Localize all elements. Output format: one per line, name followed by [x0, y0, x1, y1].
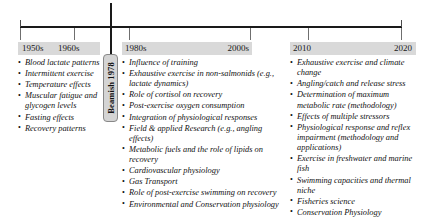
topic-item: Physiological response and reflex impair…: [290, 123, 418, 154]
topic-item: Fisheries science: [290, 197, 418, 207]
decade-label-1980s: 1980s: [125, 42, 147, 55]
axis-tick-7: [401, 28, 402, 40]
timeline-figure: Beamish 1978 1950s 1960s 1980s 2000s 201…: [0, 0, 422, 219]
topic-item: Intermittent exercise: [18, 69, 100, 79]
decade-label-1950s: 1950s: [22, 42, 44, 55]
axis-tick-2: [74, 28, 75, 40]
event-marker-line: [110, 3, 112, 55]
topic-item: Gas Transport: [122, 177, 282, 187]
decade-label-2020: 2020: [394, 42, 412, 55]
decade-band-period-3: 2010 2020: [290, 42, 416, 55]
topic-list-period-2: Influence of trainingExhaustive exercise…: [122, 58, 282, 211]
topic-item: Metabolic fuels and the role of lipids o…: [122, 145, 282, 165]
timeline-axis-line: [20, 26, 402, 28]
topic-items: Blood lactate patternsIntermittent exerc…: [18, 58, 100, 134]
topic-item: Conservation Physiology: [290, 208, 418, 218]
topic-item: Post-exercise oxygen consumption: [122, 101, 282, 111]
topic-item: Exhaustive exercise and climate change: [290, 58, 418, 78]
topic-item: Field & applied Research (e.g., angling …: [122, 124, 282, 144]
topic-list-period-3: Exhaustive exercise and climate changeAn…: [290, 58, 418, 219]
axis-end-cap: [401, 20, 402, 27]
topic-items: Influence of trainingExhaustive exercise…: [122, 58, 282, 210]
topic-item: Influence of training: [122, 58, 282, 68]
decade-band-period-2: 1980s 2000s: [122, 42, 252, 55]
topic-item: Exhaustive exercise in non-salmonids (e.…: [122, 69, 282, 89]
topic-item: Recovery patterns: [18, 124, 100, 134]
topic-item: Integration of physiological responses: [122, 113, 282, 123]
axis-tick-4: [129, 28, 130, 40]
topic-item: Effects of multiple stressors: [290, 112, 418, 122]
axis-tick-6: [308, 28, 309, 40]
topic-item: Muscular fatigue and glycogen levels: [18, 91, 100, 111]
topic-item: Blood lactate patterns: [18, 58, 100, 68]
topic-item: Swimming capacities and thermal niche: [290, 176, 418, 196]
decade-label-2000s: 2000s: [227, 42, 249, 55]
topic-item: Environmental and Conservation physiolog…: [122, 200, 282, 210]
topic-item: Determination of maximum metabolic rate …: [290, 90, 418, 110]
event-marker-box: Beamish 1978: [103, 54, 118, 122]
topic-item: Fasting effects: [18, 113, 100, 123]
event-marker-label: Beamish 1978: [106, 62, 116, 114]
topic-item: Role of post-exercise swimming on recove…: [122, 188, 282, 198]
decade-label-1960s: 1960s: [58, 42, 80, 55]
decade-band-period-1: 1950s 1960s: [18, 42, 100, 55]
topic-item: Exercise in freshwater and marine fish: [290, 154, 418, 174]
topic-list-period-1: Blood lactate patternsIntermittent exerc…: [18, 58, 100, 135]
axis-tick-1: [20, 28, 21, 40]
topic-items: Exhaustive exercise and climate changeAn…: [290, 58, 418, 218]
axis-tick-5: [250, 28, 251, 40]
topic-item: Cardiovascular physiology: [122, 166, 282, 176]
decade-label-2010: 2010: [293, 42, 311, 55]
topic-item: Angling/catch and release stress: [290, 79, 418, 89]
topic-item: Temperature effects: [18, 80, 100, 90]
topic-item: Role of cortisol on recovery: [122, 90, 282, 100]
axis-start-cap: [20, 20, 21, 27]
